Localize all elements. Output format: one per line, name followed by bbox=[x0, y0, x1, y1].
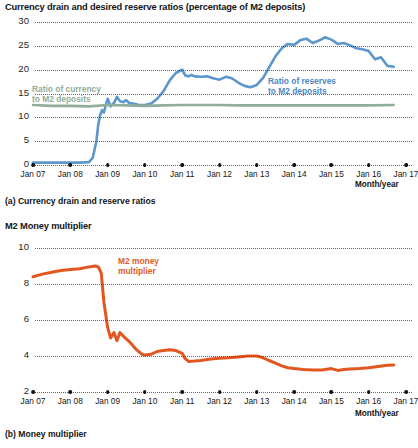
y-axis-tick-label: 2 bbox=[7, 385, 29, 396]
x-axis-tick-label: Jan 12 bbox=[207, 396, 232, 406]
series-label-currency-line1: Ratio of currency bbox=[32, 84, 101, 94]
gridline bbox=[35, 356, 412, 357]
gridline bbox=[35, 46, 412, 47]
gridline bbox=[35, 248, 412, 249]
series-label-multiplier-line2: multiplier bbox=[118, 266, 159, 276]
x-axis-tick-marker bbox=[31, 163, 35, 167]
x-axis-tick-marker bbox=[106, 163, 110, 167]
x-axis-tick-marker bbox=[31, 390, 35, 394]
panel-b-plot: 246810Jan 07Jan 08Jan 09Jan 10Jan 11Jan … bbox=[0, 236, 414, 418]
x-axis-tick-label: Jan 08 bbox=[58, 169, 83, 179]
x-axis-tick-marker bbox=[292, 163, 296, 167]
y-axis-tick-label: 15 bbox=[7, 87, 29, 98]
gridline bbox=[35, 320, 412, 321]
gridline bbox=[35, 392, 412, 393]
x-axis-tick-marker bbox=[143, 390, 147, 394]
y-axis-tick-label: 6 bbox=[7, 313, 29, 324]
series-line bbox=[33, 105, 394, 106]
y-axis-tick-label: 5 bbox=[7, 134, 29, 145]
gridline bbox=[35, 117, 412, 118]
x-axis-tick-label: Jan 11 bbox=[170, 396, 194, 406]
series-label-currency: Ratio of currency to M2 deposits bbox=[32, 84, 101, 105]
x-axis-tick-label: Jan 14 bbox=[282, 396, 307, 406]
x-axis-tick-marker bbox=[69, 163, 73, 167]
x-axis-tick-label: Jan 16 bbox=[356, 396, 381, 406]
x-axis-tick-label: Jan 14 bbox=[282, 169, 307, 179]
gridline bbox=[35, 141, 412, 142]
x-axis-tick-label: Jan 07 bbox=[21, 396, 46, 406]
series-label-currency-line2: to M2 deposits bbox=[32, 94, 101, 104]
x-axis-tick-label: Jan 10 bbox=[132, 396, 157, 406]
x-axis-tick-marker bbox=[180, 163, 184, 167]
panel-b-caption: (b) Money multiplier bbox=[5, 429, 87, 439]
y-axis-tick-label: 30 bbox=[7, 15, 29, 26]
panel-a-caption: (a) Currency drain and reserve ratios bbox=[5, 196, 155, 206]
x-axis-tick-label: Jan 16 bbox=[356, 169, 381, 179]
x-axis-tick-label: Jan 08 bbox=[58, 396, 83, 406]
x-axis-tick-marker bbox=[404, 163, 408, 167]
y-axis-tick-label: 25 bbox=[7, 39, 29, 50]
x-axis-tick-label: Jan 17 bbox=[394, 169, 418, 179]
y-axis-tick-label: 20 bbox=[7, 63, 29, 74]
panel-a-title: Currency drain and desired reserve ratio… bbox=[5, 2, 305, 12]
x-axis-tick-marker bbox=[255, 390, 259, 394]
y-axis-tick-label: 10 bbox=[7, 110, 29, 121]
x-axis-tick-label: Jan 09 bbox=[95, 169, 120, 179]
gridline bbox=[35, 165, 412, 166]
panel-b-svg bbox=[0, 236, 414, 418]
x-axis-tick-label: Jan 15 bbox=[319, 396, 344, 406]
panel-b-axis-unit-label: Month/year bbox=[355, 409, 399, 418]
x-axis-tick-label: Jan 17 bbox=[394, 396, 418, 406]
x-axis-tick-label: Jan 11 bbox=[170, 169, 194, 179]
series-label-reserves-line1: Ratio of reserves bbox=[268, 76, 336, 86]
x-axis-tick-marker bbox=[292, 390, 296, 394]
x-axis-tick-marker bbox=[367, 390, 371, 394]
x-axis-tick-marker bbox=[404, 390, 408, 394]
panel-b-title: M2 Money multiplier bbox=[5, 221, 92, 231]
series-label-reserves: Ratio of reserves to M2 deposits bbox=[268, 76, 336, 97]
x-axis-tick-marker bbox=[218, 390, 222, 394]
gridline bbox=[35, 284, 412, 285]
x-axis-tick-label: Jan 10 bbox=[132, 169, 157, 179]
gridline bbox=[35, 70, 412, 71]
x-axis-tick-marker bbox=[330, 390, 334, 394]
x-axis-tick-marker bbox=[180, 390, 184, 394]
x-axis-tick-marker bbox=[255, 163, 259, 167]
x-axis-tick-label: Jan 15 bbox=[319, 169, 344, 179]
x-axis-tick-label: Jan 07 bbox=[21, 169, 46, 179]
series-label-multiplier: M2 money multiplier bbox=[118, 256, 159, 277]
x-axis-tick-label: Jan 13 bbox=[244, 396, 269, 406]
series-label-multiplier-line1: M2 money bbox=[118, 256, 159, 266]
gridline bbox=[35, 22, 412, 23]
x-axis-tick-label: Jan 12 bbox=[207, 169, 232, 179]
series-label-reserves-line2: to M2 deposits bbox=[268, 86, 336, 96]
series-line bbox=[33, 266, 394, 370]
x-axis-tick-marker bbox=[69, 390, 73, 394]
x-axis-tick-label: Jan 09 bbox=[95, 396, 120, 406]
panel-a-axis-unit-label: Month/year bbox=[355, 180, 399, 189]
y-axis-tick-label: 0 bbox=[7, 158, 29, 169]
x-axis-tick-marker bbox=[367, 163, 371, 167]
y-axis-tick-label: 10 bbox=[7, 241, 29, 252]
x-axis-tick-marker bbox=[218, 163, 222, 167]
x-axis-tick-marker bbox=[330, 163, 334, 167]
y-axis-tick-label: 8 bbox=[7, 277, 29, 288]
x-axis-tick-label: Jan 13 bbox=[244, 169, 269, 179]
x-axis-tick-marker bbox=[106, 390, 110, 394]
y-axis-tick-label: 4 bbox=[7, 349, 29, 360]
x-axis-tick-marker bbox=[143, 163, 147, 167]
